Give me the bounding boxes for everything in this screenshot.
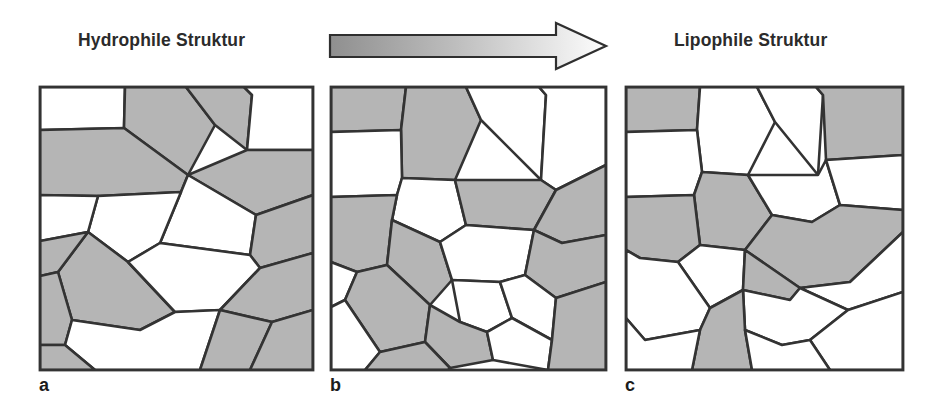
gradient-right-arrow — [330, 23, 606, 69]
cell — [331, 87, 406, 132]
panel-b — [331, 87, 606, 370]
cell — [331, 130, 402, 197]
lipophile-struktur-title: Lipophile Struktur — [674, 30, 827, 51]
cell — [244, 87, 313, 150]
arrow-shape — [330, 23, 606, 69]
cell — [40, 87, 125, 130]
figure-root: Hydrophile Struktur Lipophile Struktur a… — [0, 0, 928, 417]
panel-c — [626, 87, 903, 370]
panel-a — [40, 87, 313, 370]
panel-b-label: b — [330, 375, 341, 396]
hydrophile-struktur-title: Hydrophile Struktur — [78, 30, 245, 51]
cell — [626, 130, 702, 197]
cell-structure-diagram — [0, 0, 928, 417]
cell — [440, 225, 534, 282]
cell — [816, 87, 903, 160]
cell — [466, 87, 546, 180]
panel-c-label: c — [625, 375, 635, 396]
cell — [626, 87, 700, 132]
cell — [401, 87, 481, 180]
panel-a-label: a — [39, 375, 49, 396]
